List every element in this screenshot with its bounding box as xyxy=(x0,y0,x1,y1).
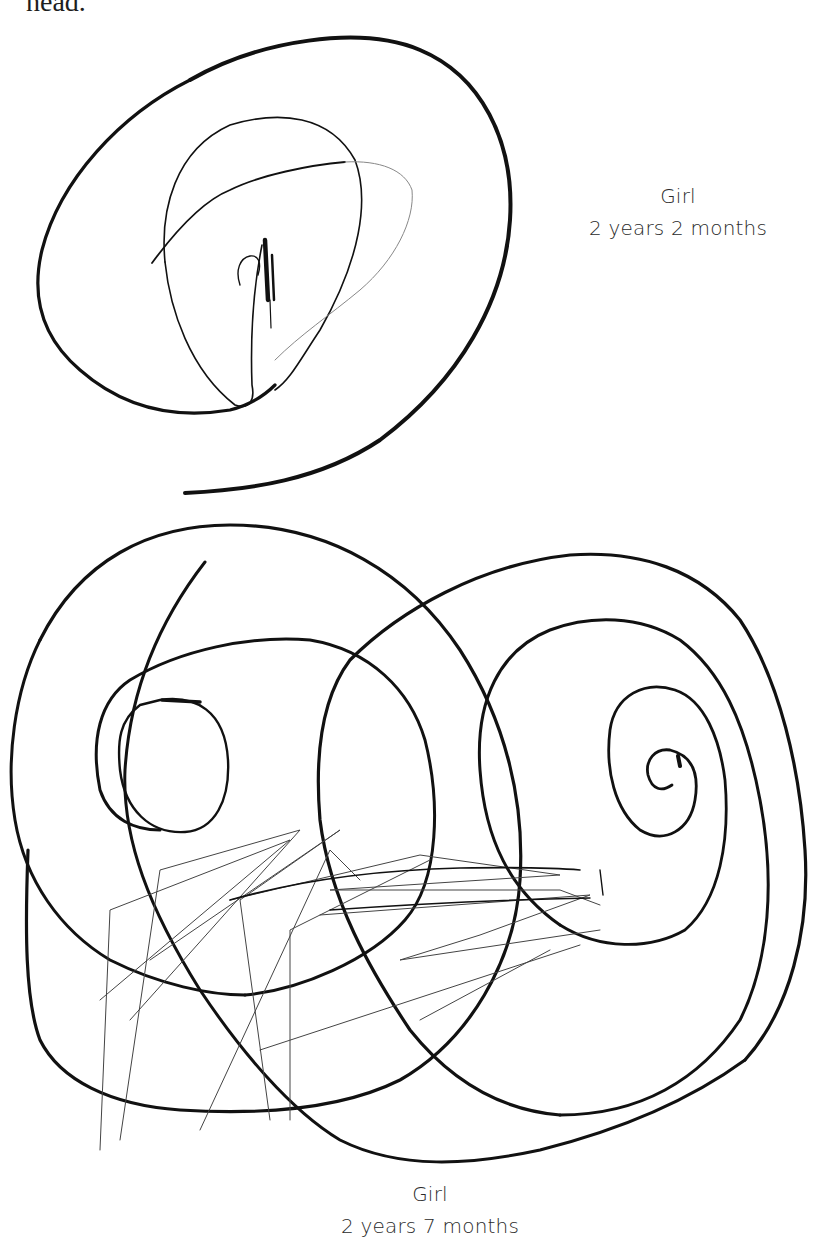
caption-age: 2 years 7 months xyxy=(320,1210,540,1242)
scribble-drawing-2 xyxy=(0,0,828,1244)
caption-subject: Girl xyxy=(320,1178,540,1210)
figure-caption-2: Girl 2 years 7 months xyxy=(320,1178,540,1242)
